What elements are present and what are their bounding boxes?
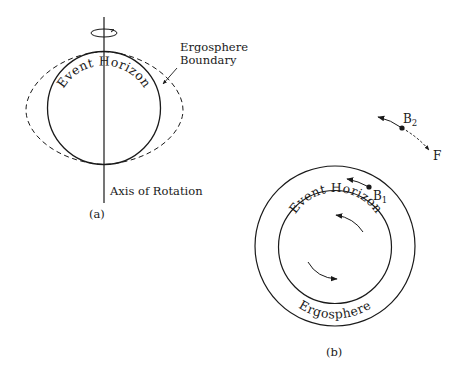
rotation-arrow-lower [308,262,337,279]
ergosphere-label: Ergosphere [297,297,374,321]
figure-a-caption: (a) [89,207,105,221]
figure-b: Event Horizon Ergosphere B1 B2 F (b) [255,112,441,359]
figure-a: Event Horizon Ergosphere Boundary Axis o… [26,17,248,221]
force-f-label: F [433,149,441,163]
figure-b-caption: (b) [326,345,342,359]
body-b2-label: B2 [403,112,417,128]
black-hole-diagram: Event Horizon Ergosphere Boundary Axis o… [0,0,466,367]
force-f-dashed-arrow [402,128,429,150]
rotation-arrow-upper [336,215,363,232]
ergosphere-pointer-arrow [163,68,177,84]
axis-of-rotation-label: Axis of Rotation [109,184,203,198]
ergosphere-boundary-label-line2: Boundary [180,53,237,67]
body-b2-arrow [378,117,402,128]
ergosphere-boundary-label-line1: Ergosphere [180,40,248,54]
body-b1-label: B1 [373,189,387,205]
event-horizon-label-b: Event Horizon [286,180,386,216]
